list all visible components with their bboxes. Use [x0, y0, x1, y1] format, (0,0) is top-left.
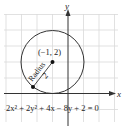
center-point — [51, 60, 55, 64]
equation: 2x² + 2y² + 4x − 8y + 2 = 0 — [6, 103, 99, 113]
x-axis-arrow-icon — [109, 91, 116, 96]
circle-diagram: x y (−1, 2) Radius 2 2x² + 2y² + 4x − 8y… — [0, 0, 123, 126]
y-axis-label: y — [64, 1, 69, 11]
circle-point — [31, 85, 35, 89]
x-axis-label: x — [116, 89, 121, 99]
center-label: (−1, 2) — [38, 47, 61, 57]
